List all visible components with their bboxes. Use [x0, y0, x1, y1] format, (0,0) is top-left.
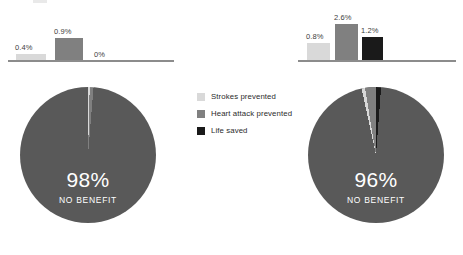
legend-label-strokes: Strokes prevented: [211, 92, 276, 101]
right-bar-baseline: [298, 60, 456, 62]
legend-label-life: Life saved: [211, 126, 248, 135]
left-pie-caption: NO BENEFIT: [20, 196, 156, 205]
left-bar-strokes: [16, 54, 46, 60]
right-bar-life: [362, 37, 383, 60]
right-pie-slices-overlay: [308, 87, 444, 223]
left-bar-chart: 0.4% 0.9% 0%: [8, 0, 174, 68]
left-bar-strokes-label: 0.4%: [15, 43, 33, 52]
legend-item-life: Life saved: [197, 122, 292, 139]
left-bar-life-label: 0%: [94, 50, 105, 59]
right-bar-strokes-label: 0.8%: [306, 32, 324, 41]
right-bar-strokes: [307, 43, 330, 60]
left-pie-percent: 98%: [20, 169, 156, 190]
left-pie-chart: 98% NO BENEFIT: [20, 87, 156, 223]
left-bar-heart: [55, 38, 83, 60]
left-bar-baseline: [8, 60, 174, 62]
left-bar-heart-label: 0.9%: [54, 27, 72, 36]
legend-label-heart: Heart attack prevented: [211, 109, 292, 118]
chart-canvas: 0.4% 0.9% 0% 98% NO BENEFIT Strokes prev…: [0, 0, 463, 255]
legend-swatch-life-icon: [197, 127, 205, 135]
right-bar-heart: [335, 24, 358, 60]
right-bar-chart: 0.8% 2.6% 1.2%: [298, 0, 456, 68]
legend-swatch-strokes-icon: [197, 93, 205, 101]
legend-swatch-heart-icon: [197, 110, 205, 118]
legend-item-strokes: Strokes prevented: [197, 88, 292, 105]
legend: Strokes prevented Heart attack prevented…: [197, 88, 292, 139]
right-bar-life-label: 1.2%: [361, 26, 379, 35]
right-bar-heart-label: 2.6%: [334, 13, 352, 22]
legend-item-heart: Heart attack prevented: [197, 105, 292, 122]
